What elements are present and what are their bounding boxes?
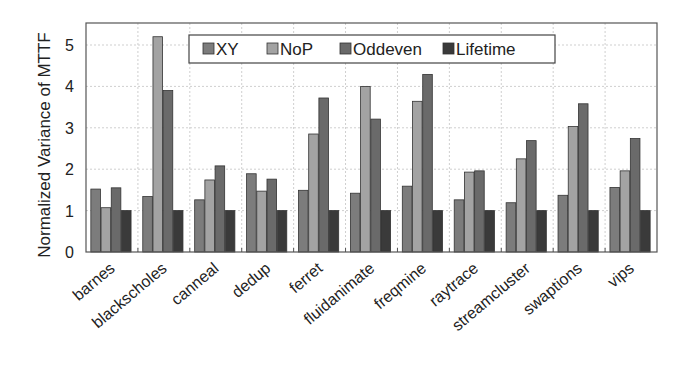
bar-xy-streamcluster bbox=[506, 203, 516, 252]
x-tick-label: dedup bbox=[229, 259, 274, 301]
bar-xy-swaptions bbox=[558, 195, 568, 252]
x-tick-label: barnes bbox=[69, 259, 117, 303]
bar-oddeven-swaptions bbox=[578, 104, 588, 252]
bar-xy-ferret bbox=[298, 190, 308, 252]
bar-nop-raytrace bbox=[464, 172, 474, 252]
legend-swatch-nop bbox=[267, 43, 278, 54]
bar-lifetime-raytrace bbox=[485, 211, 495, 252]
bar-oddeven-canneal bbox=[215, 166, 225, 252]
bar-lifetime-swaptions bbox=[589, 211, 599, 252]
bar-lifetime-vips bbox=[641, 211, 651, 252]
bar-oddeven-dedup bbox=[267, 179, 277, 252]
legend: XYNoPOddevenLifetime bbox=[189, 35, 555, 63]
bar-nop-blackscholes bbox=[153, 37, 163, 252]
x-axis: barnesblackscholescannealdedupferretflui… bbox=[69, 259, 636, 334]
y-tick-label: 2 bbox=[65, 161, 74, 178]
legend-label-xy: XY bbox=[216, 40, 239, 59]
legend-swatch-xy bbox=[203, 43, 214, 54]
bar-lifetime-fluidanimate bbox=[381, 211, 391, 252]
bar-oddeven-streamcluster bbox=[527, 141, 537, 252]
bar-oddeven-barnes bbox=[111, 188, 121, 252]
bar-oddeven-ferret bbox=[319, 98, 329, 252]
x-tick-label: canneal bbox=[168, 259, 222, 308]
bar-lifetime-canneal bbox=[225, 211, 235, 252]
bar-oddeven-freqmine bbox=[423, 74, 433, 252]
legend-swatch-oddeven bbox=[340, 43, 351, 54]
x-tick-label: vips bbox=[604, 259, 637, 290]
bar-xy-canneal bbox=[195, 200, 205, 252]
bar-nop-streamcluster bbox=[516, 159, 526, 252]
bar-lifetime-streamcluster bbox=[537, 211, 547, 252]
bar-nop-vips bbox=[620, 171, 630, 252]
bar-oddeven-raytrace bbox=[475, 171, 485, 252]
bar-lifetime-freqmine bbox=[433, 211, 443, 252]
bar-xy-barnes bbox=[91, 189, 101, 252]
bar-xy-blackscholes bbox=[143, 197, 153, 252]
bar-nop-dedup bbox=[257, 191, 267, 252]
legend-label-oddeven: Oddeven bbox=[353, 40, 422, 59]
bar-lifetime-dedup bbox=[277, 211, 287, 252]
y-tick-label: 4 bbox=[65, 78, 74, 95]
bar-oddeven-fluidanimate bbox=[371, 119, 381, 252]
bar-nop-canneal bbox=[205, 180, 215, 252]
bar-nop-fluidanimate bbox=[361, 86, 371, 252]
x-tick-label: freqmine bbox=[371, 259, 430, 312]
bar-nop-freqmine bbox=[413, 101, 423, 252]
bar-oddeven-vips bbox=[630, 139, 640, 252]
y-axis: 012345 bbox=[65, 37, 74, 261]
bar-lifetime-ferret bbox=[329, 211, 339, 252]
bar-xy-dedup bbox=[247, 174, 257, 252]
y-tick-label: 5 bbox=[65, 37, 74, 54]
bar-lifetime-blackscholes bbox=[173, 211, 183, 252]
bar-nop-ferret bbox=[309, 134, 319, 252]
bar-xy-raytrace bbox=[454, 200, 464, 252]
bar-xy-fluidanimate bbox=[350, 193, 360, 252]
bar-xy-freqmine bbox=[402, 186, 412, 252]
y-tick-label: 0 bbox=[65, 244, 74, 261]
bar-nop-barnes bbox=[101, 208, 111, 252]
bar-nop-swaptions bbox=[568, 127, 578, 252]
y-tick-label: 1 bbox=[65, 203, 74, 220]
legend-label-nop: NoP bbox=[280, 40, 313, 59]
x-tick-label: ferret bbox=[286, 259, 326, 296]
bars bbox=[91, 37, 650, 252]
legend-swatch-lifetime bbox=[443, 43, 454, 54]
bar-oddeven-blackscholes bbox=[163, 91, 173, 252]
bar-xy-vips bbox=[610, 187, 620, 252]
legend-label-lifetime: Lifetime bbox=[456, 40, 516, 59]
y-tick-label: 3 bbox=[65, 120, 74, 137]
bar-lifetime-barnes bbox=[121, 211, 131, 252]
bar-chart: 012345 barnesblackscholescannealdedupfer… bbox=[0, 0, 688, 370]
y-axis-label: Normalized Variance of MTTF bbox=[35, 32, 54, 257]
